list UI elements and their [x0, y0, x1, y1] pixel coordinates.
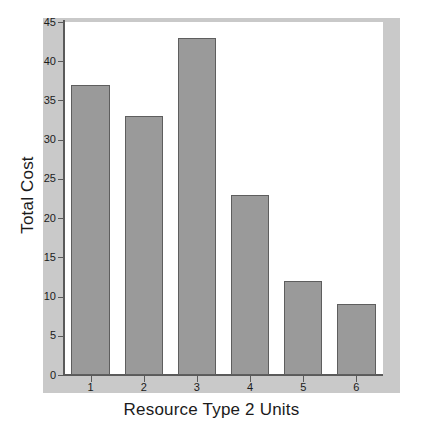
bar[interactable]: [178, 38, 216, 375]
y-axis-tick-label: 10: [34, 291, 56, 302]
y-axis-tick-label-wrap: 5: [34, 330, 56, 341]
bar[interactable]: [231, 195, 269, 375]
x-axis-tick-label: 6: [336, 382, 376, 393]
y-axis-tick-label-wrap: 0: [34, 370, 56, 381]
x-axis-title: Resource Type 2 Units: [0, 400, 423, 420]
x-axis-tick-label: 5: [283, 382, 323, 393]
bars-layer: [64, 22, 383, 375]
x-axis-tick-label: 3: [177, 382, 217, 393]
x-axis-tick-label: 1: [71, 382, 111, 393]
y-axis-tick-label: 45: [34, 17, 56, 28]
y-axis-tick-label: 40: [34, 56, 56, 67]
y-axis-tick: [58, 375, 64, 376]
x-axis-tick-label: 4: [230, 382, 270, 393]
y-axis-tick-label-wrap: 40: [34, 56, 56, 67]
y-axis-tick-label-wrap: 10: [34, 291, 56, 302]
bar[interactable]: [337, 304, 375, 375]
y-axis-tick-label: 0: [34, 370, 56, 381]
bar[interactable]: [71, 85, 109, 375]
chart-frame-right: [383, 18, 400, 393]
bar[interactable]: [284, 281, 322, 375]
y-axis-tick-label: 35: [34, 95, 56, 106]
y-axis-title: Total Cost: [18, 115, 38, 275]
bar[interactable]: [125, 116, 163, 375]
x-axis-tick-label: 2: [124, 382, 164, 393]
y-axis-tick-label-wrap: 35: [34, 95, 56, 106]
bar-chart: 051015202530354045 123456 Resource Type …: [0, 0, 423, 434]
y-axis-tick-label: 5: [34, 330, 56, 341]
y-axis-tick-label-wrap: 45: [34, 17, 56, 28]
